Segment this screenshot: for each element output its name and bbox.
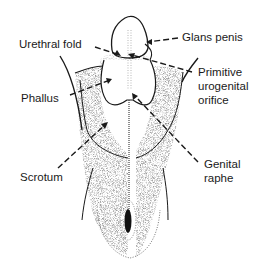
label-glans-penis: Glans penis: [182, 31, 243, 44]
anal-pit: [125, 209, 132, 233]
label-genital-raphe-line1: Genital: [204, 158, 240, 171]
label-primitive-orifice-line2: urogenital: [198, 80, 249, 93]
anatomy-diagram: Glans penis Urethral fold Primitive urog…: [0, 0, 266, 269]
label-primitive-orifice-line3: orifice: [198, 94, 229, 107]
label-genital-raphe-line2: raphe: [204, 172, 233, 185]
label-scrotum: Scrotum: [20, 171, 63, 184]
label-urethral-fold: Urethral fold: [19, 38, 82, 51]
leader-glans-penis: [148, 38, 178, 42]
label-phallus: Phallus: [21, 92, 59, 105]
phallus-shaft: [101, 60, 155, 105]
right-outer-contour: [182, 58, 198, 82]
label-primitive-orifice-line1: Primitive: [198, 66, 242, 79]
